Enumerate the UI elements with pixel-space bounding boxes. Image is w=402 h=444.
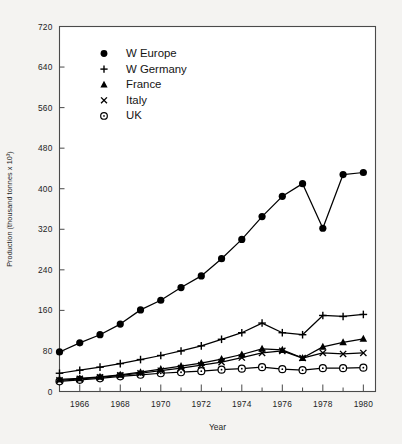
x-tick-label: 1980 bbox=[354, 399, 374, 409]
plot-area-background bbox=[60, 27, 376, 392]
y-axis-title: Production (thousand tonnes x 10³) bbox=[5, 151, 14, 267]
y-tick-label: 320 bbox=[38, 224, 53, 234]
marker-filled-circle bbox=[198, 272, 205, 279]
marker-open-circle bbox=[279, 366, 286, 373]
marker-filled-circle bbox=[157, 297, 164, 304]
x-tick-label: 1970 bbox=[151, 399, 171, 409]
marker-filled-circle bbox=[299, 180, 306, 187]
marker-open-circle bbox=[238, 365, 245, 372]
y-tick-label: 560 bbox=[38, 103, 53, 113]
y-tick-label: 720 bbox=[38, 22, 53, 32]
marker-filled-circle bbox=[258, 213, 265, 220]
marker-filled-circle bbox=[96, 331, 103, 338]
marker-open-circle bbox=[259, 364, 266, 371]
marker-filled-circle bbox=[339, 171, 346, 178]
y-tick-label: 400 bbox=[38, 184, 53, 194]
marker-filled-circle bbox=[76, 339, 83, 346]
y-tick-label: 80 bbox=[43, 346, 53, 356]
chart-container: 080160240320400480560640720 196619681970… bbox=[0, 0, 402, 444]
legend-label: UK bbox=[126, 109, 142, 121]
marker-open-circle bbox=[218, 366, 225, 373]
y-tick-label: 480 bbox=[38, 143, 53, 153]
marker-filled-circle bbox=[177, 284, 184, 291]
x-tick-label: 1968 bbox=[111, 399, 131, 409]
y-tick-label: 160 bbox=[38, 305, 53, 315]
marker-open-circle bbox=[360, 364, 367, 371]
x-axis-title: Year bbox=[209, 422, 226, 432]
marker-open-circle bbox=[198, 368, 205, 375]
marker-open-circle bbox=[319, 365, 326, 372]
marker-filled-circle bbox=[101, 50, 108, 57]
marker-open-circle bbox=[299, 367, 306, 374]
marker-filled-circle bbox=[137, 306, 144, 313]
marker-filled-circle bbox=[238, 236, 245, 243]
legend-label: W Europe bbox=[126, 47, 177, 59]
marker-filled-circle bbox=[360, 169, 367, 176]
x-tick-label: 1976 bbox=[273, 399, 293, 409]
marker-open-circle bbox=[340, 365, 347, 372]
marker-filled-circle bbox=[218, 255, 225, 262]
marker-filled-circle bbox=[319, 225, 326, 232]
y-tick-label: 0 bbox=[48, 387, 53, 397]
marker-filled-circle bbox=[117, 320, 124, 327]
legend-label: Italy bbox=[126, 94, 147, 106]
x-tick-label: 1974 bbox=[232, 399, 252, 409]
production-line-chart: 080160240320400480560640720 196619681970… bbox=[0, 0, 402, 444]
x-tick-label: 1978 bbox=[313, 399, 333, 409]
legend-label: W Germany bbox=[126, 63, 187, 75]
marker-filled-circle bbox=[279, 193, 286, 200]
x-tick-label: 1966 bbox=[70, 399, 90, 409]
marker-open-circle bbox=[101, 113, 108, 120]
marker-filled-circle bbox=[56, 348, 63, 355]
legend-label: France bbox=[126, 78, 161, 90]
y-tick-label: 640 bbox=[38, 62, 53, 72]
y-tick-label: 240 bbox=[38, 265, 53, 275]
x-tick-label: 1972 bbox=[192, 399, 212, 409]
